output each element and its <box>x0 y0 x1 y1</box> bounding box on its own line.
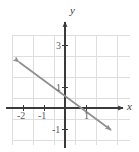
x-axis-name-label: x <box>127 101 132 112</box>
x-tick-label-pos1: 1 <box>84 111 89 121</box>
y-axis-name-label: y <box>70 5 75 16</box>
graph-canvas <box>0 0 139 152</box>
y-tick-label-pos3: 3 <box>56 41 61 51</box>
x-tick-label-neg2: -2 <box>17 111 25 121</box>
x-tick-label-neg1: -1 <box>38 111 46 121</box>
coordinate-plane-figure: -2 -1 1 3 1 -1 y x <box>0 0 139 152</box>
y-tick-label-pos1: 1 <box>56 83 61 93</box>
y-tick-label-neg1: -1 <box>52 125 60 135</box>
grid-lines <box>13 35 131 145</box>
